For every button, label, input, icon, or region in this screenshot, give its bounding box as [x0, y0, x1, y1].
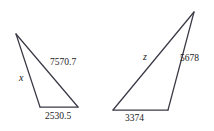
- left-triangle: [16, 34, 78, 107]
- left-triangle-hypotenuse-edge: [16, 34, 78, 107]
- triangles-svg: [0, 0, 214, 131]
- geometry-figure: 7570.7 x 2530.5 z 5678 3374: [0, 0, 214, 131]
- left-triangle-base-label: 2530.5: [45, 112, 71, 122]
- left-triangle-unknown-side-edge: [16, 34, 40, 107]
- right-triangle-right-side-label: 5678: [180, 54, 199, 64]
- right-triangle-base-label: 3374: [125, 114, 144, 124]
- right-triangle-unknown-side-label: z: [143, 52, 147, 62]
- left-triangle-unknown-side-label: x: [19, 73, 23, 83]
- left-triangle-hypotenuse-label: 7570.7: [50, 58, 76, 68]
